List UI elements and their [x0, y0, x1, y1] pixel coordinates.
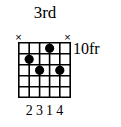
finger-dot-f3-s5: [55, 66, 64, 75]
chord-name-title: 3rd: [0, 3, 90, 23]
finger-dot-f1-s4: [45, 44, 54, 53]
finger-number-string-5: 4: [54, 102, 66, 120]
mute-marker-string-6: ×: [63, 33, 72, 42]
fretboard-grid: [18, 42, 71, 98]
finger-dot-f2-s2: [25, 55, 34, 64]
finger-number-row: 2 3 1 4: [18, 102, 71, 120]
fretboard-svg: [18, 42, 71, 98]
mute-marker-string-1: ×: [14, 33, 23, 42]
chord-diagram: 3rd × × 10fr 2 3 1: [0, 0, 121, 127]
finger-dot-f3-s3: [35, 66, 44, 75]
fret-position-label: 10fr: [73, 40, 100, 58]
